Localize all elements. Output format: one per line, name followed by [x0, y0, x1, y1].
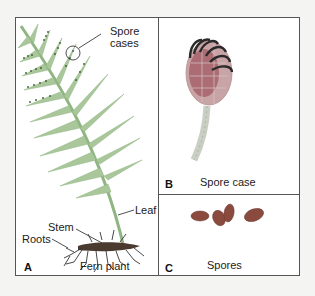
caption-spores: Spores: [207, 259, 242, 271]
panel-letter-b: B: [165, 178, 173, 190]
label-spore-cases-line1: Spore: [110, 25, 139, 37]
label-roots: Roots: [22, 233, 51, 245]
spores-illustration: [191, 203, 265, 228]
caption-fern-plant: Fern plant: [80, 260, 130, 272]
caption-spore-case: Spore case: [200, 176, 256, 188]
figure-frame: Spore cases Leaf Stem Roots A Fern plant…: [15, 17, 300, 276]
panel-letter-a: A: [24, 261, 32, 273]
spore-case-illustration: [186, 40, 232, 160]
label-spore-cases-line2: cases: [110, 37, 139, 49]
label-stem: Stem: [48, 221, 74, 233]
fern-plant-illustration: [16, 18, 301, 277]
label-leaf: Leaf: [135, 204, 156, 216]
panel-letter-c: C: [165, 262, 173, 274]
label-spore-cases: Spore cases: [110, 25, 139, 49]
